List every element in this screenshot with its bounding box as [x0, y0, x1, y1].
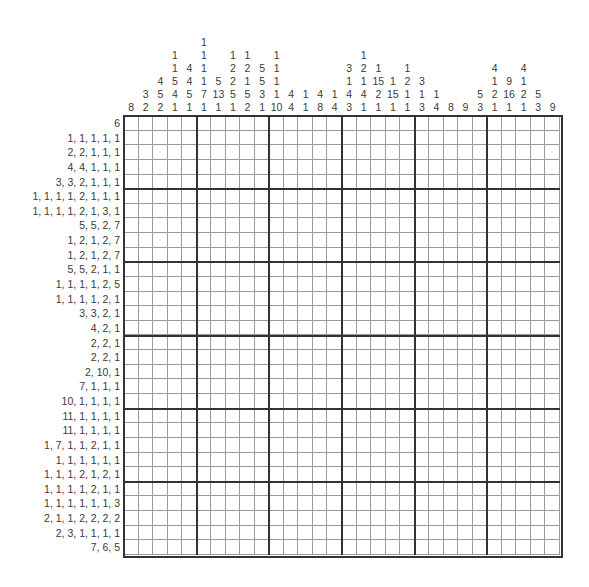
grid-cell[interactable] [400, 204, 415, 219]
grid-cell[interactable] [298, 496, 313, 511]
grid-cell[interactable] [284, 511, 299, 526]
grid-cell[interactable] [458, 189, 473, 204]
grid-cell[interactable] [516, 453, 531, 468]
grid-cell[interactable] [240, 321, 255, 336]
grid-cell[interactable] [211, 540, 226, 555]
grid-cell[interactable] [298, 438, 313, 453]
grid-cell[interactable] [284, 189, 299, 204]
grid-cell[interactable] [168, 409, 183, 424]
grid-cell[interactable] [516, 131, 531, 146]
grid-cell[interactable] [139, 321, 154, 336]
grid-cell[interactable] [473, 116, 488, 131]
grid-cell[interactable] [124, 423, 139, 438]
grid-cell[interactable] [531, 175, 546, 190]
grid-cell[interactable] [298, 394, 313, 409]
grid-cell[interactable] [269, 233, 284, 248]
grid-cell[interactable] [531, 365, 546, 380]
grid-cell[interactable] [124, 350, 139, 365]
grid-cell[interactable] [327, 496, 342, 511]
grid-cell[interactable] [298, 306, 313, 321]
grid-cell[interactable] [444, 438, 459, 453]
grid-cell[interactable] [269, 540, 284, 555]
grid-cell[interactable] [357, 131, 372, 146]
grid-cell[interactable] [458, 350, 473, 365]
grid-cell[interactable] [415, 321, 430, 336]
grid-cell[interactable] [357, 526, 372, 541]
grid-cell[interactable] [269, 292, 284, 307]
grid-cell[interactable] [168, 394, 183, 409]
grid-cell[interactable] [226, 277, 241, 292]
grid-cell[interactable] [400, 248, 415, 263]
grid-cell[interactable] [211, 365, 226, 380]
grid-cell[interactable] [139, 262, 154, 277]
grid-cell[interactable] [458, 233, 473, 248]
grid-cell[interactable] [502, 394, 517, 409]
grid-cell[interactable] [487, 292, 502, 307]
grid-cell[interactable] [182, 482, 197, 497]
grid-cell[interactable] [139, 438, 154, 453]
grid-cell[interactable] [211, 160, 226, 175]
grid-cell[interactable] [284, 233, 299, 248]
grid-cell[interactable] [487, 160, 502, 175]
grid-cell[interactable] [473, 262, 488, 277]
grid-cell[interactable] [487, 438, 502, 453]
grid-cell[interactable] [371, 204, 386, 219]
grid-cell[interactable] [197, 175, 212, 190]
grid-cell[interactable] [458, 526, 473, 541]
grid-cell[interactable] [182, 394, 197, 409]
grid-cell[interactable] [444, 321, 459, 336]
grid-cell[interactable] [487, 336, 502, 351]
grid-cell[interactable] [153, 409, 168, 424]
grid-cell[interactable] [386, 540, 401, 555]
grid-cell[interactable] [545, 262, 560, 277]
grid-cell[interactable] [124, 218, 139, 233]
grid-cell[interactable] [226, 379, 241, 394]
grid-cell[interactable] [487, 379, 502, 394]
grid-cell[interactable] [400, 526, 415, 541]
grid-cell[interactable] [327, 218, 342, 233]
grid-cell[interactable] [124, 248, 139, 263]
grid-cell[interactable] [124, 189, 139, 204]
grid-cell[interactable] [487, 175, 502, 190]
grid-cell[interactable] [531, 423, 546, 438]
grid-cell[interactable] [255, 540, 270, 555]
grid-cell[interactable] [211, 262, 226, 277]
grid-cell[interactable] [327, 160, 342, 175]
grid-cell[interactable] [153, 453, 168, 468]
grid-cell[interactable] [168, 467, 183, 482]
grid-cell[interactable] [139, 175, 154, 190]
grid-cell[interactable] [545, 409, 560, 424]
grid-cell[interactable] [357, 511, 372, 526]
grid-cell[interactable] [415, 218, 430, 233]
grid-cell[interactable] [211, 423, 226, 438]
grid-cell[interactable] [182, 131, 197, 146]
grid-cell[interactable] [240, 116, 255, 131]
grid-cell[interactable] [255, 321, 270, 336]
grid-cell[interactable] [240, 189, 255, 204]
grid-cell[interactable] [269, 218, 284, 233]
grid-cell[interactable] [197, 131, 212, 146]
grid-cell[interactable] [124, 306, 139, 321]
grid-cell[interactable] [386, 511, 401, 526]
grid-cell[interactable] [139, 482, 154, 497]
grid-cell[interactable] [531, 204, 546, 219]
grid-cell[interactable] [124, 540, 139, 555]
grid-cell[interactable] [197, 248, 212, 263]
grid-cell[interactable] [473, 365, 488, 380]
grid-cell[interactable] [284, 350, 299, 365]
grid-cell[interactable] [357, 496, 372, 511]
grid-cell[interactable] [502, 496, 517, 511]
grid-cell[interactable] [255, 175, 270, 190]
grid-cell[interactable] [473, 394, 488, 409]
grid-cell[interactable] [211, 394, 226, 409]
grid-cell[interactable] [444, 423, 459, 438]
grid-cell[interactable] [531, 438, 546, 453]
grid-cell[interactable] [342, 277, 357, 292]
grid-cell[interactable] [545, 292, 560, 307]
grid-cell[interactable] [226, 467, 241, 482]
grid-cell[interactable] [124, 394, 139, 409]
grid-cell[interactable] [502, 218, 517, 233]
grid-cell[interactable] [269, 248, 284, 263]
grid-cell[interactable] [429, 160, 444, 175]
grid-cell[interactable] [458, 262, 473, 277]
